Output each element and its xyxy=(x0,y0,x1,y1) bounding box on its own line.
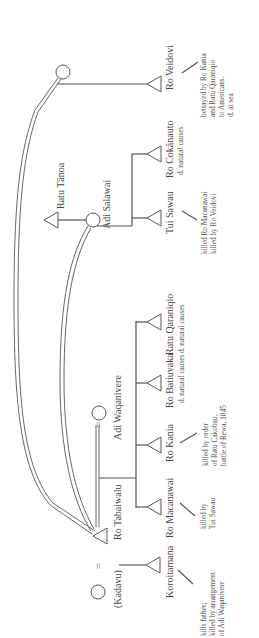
ratu-tanoa-label: Ratu Tānoa xyxy=(55,162,66,209)
ro-veidovi-note-3: to Americans. xyxy=(217,76,226,117)
person-unnamed-wife-circle-icon xyxy=(56,65,70,79)
ratu-qaraniqio-label: Ratu Qaraniqio xyxy=(164,294,175,355)
marriage-symbol: = xyxy=(92,563,104,569)
kadavu-label: (Kadavu) xyxy=(112,570,124,608)
person-adi-waqanivere-circle-icon xyxy=(92,406,106,420)
annotation-slash xyxy=(182,211,197,220)
person-ro-batiuvaka-triangle-icon xyxy=(147,375,161,391)
annotation-slash xyxy=(180,433,197,443)
ratu-qaraniqio-note-1: d. natural causes xyxy=(177,304,186,353)
marriage-symbol-2: = xyxy=(92,422,104,428)
ro-veidovi-note-1: betrayed by Ro Kania xyxy=(199,52,208,117)
ro-kania-label: Ro Kania xyxy=(164,423,175,462)
koroitamana-note-2: killed by arrangement xyxy=(208,572,217,636)
adi-salawai-label: Adi Salawai xyxy=(101,180,112,229)
tui-sawau-note-2: killed by Ro Veidovi xyxy=(209,194,218,254)
annotation-slash xyxy=(182,62,198,73)
ro-kania-note-1: killed by order xyxy=(201,422,210,466)
ro-kania-note-2: of Ratu Cakobau, xyxy=(210,415,219,466)
person-ratu-tanoa-triangle-icon xyxy=(44,212,58,228)
marriage-curve-unnamed-wife-2 xyxy=(18,79,95,531)
ro-batiuvaka-label: Ro Batiuvaka xyxy=(164,353,175,408)
marriage-curve-unnamed-wife xyxy=(14,78,92,534)
person-tui-sawau-triangle-icon xyxy=(147,210,161,226)
marriage-curve-adi-salawai xyxy=(60,226,91,531)
adi-waqanivere-label: Adi Waqanivere xyxy=(112,375,123,440)
person-koroitamana-triangle-icon xyxy=(146,557,160,573)
person-adi-salawai-circle-icon xyxy=(86,213,100,227)
marriage-curve-adi-salawai-2 xyxy=(64,228,94,529)
person-ro-cokanauto-triangle-icon xyxy=(147,146,161,162)
person-ro-kania-triangle-icon xyxy=(147,437,161,453)
ro-veidovi-note-2: and Ratu Qaraniqio xyxy=(208,60,217,117)
koroitamana-note-3: of Adi Waqanivere xyxy=(217,581,226,636)
person-kadavu-circle-icon xyxy=(91,585,105,599)
ro-batiuvaka-note-1: d. natural causes xyxy=(177,354,186,403)
ro-veidovi-label: Ro Veidovi xyxy=(164,45,175,90)
person-ro-veidovi-triangle-icon xyxy=(147,76,161,92)
annotation-slash xyxy=(178,570,193,584)
annotation-slash xyxy=(180,503,195,516)
koroitamana-label: Koroitamana xyxy=(164,545,175,598)
genealogy-diagram: (Kadavu) = Ro Tabaiwalu = Adi Waqanivere… xyxy=(0,0,259,638)
ro-cokanauto-note-1: d. natural causes xyxy=(176,126,185,175)
ro-macanawai-label: Ro Macanawai xyxy=(164,478,175,538)
ro-macanawai-note-1: killed by xyxy=(199,503,208,529)
ro-veidovi-note-4: d. at sea xyxy=(226,93,235,117)
ro-tabaiwalu-label: Ro Tabaiwalu xyxy=(112,485,123,541)
ro-macanawai-note-2: Tui Sawau xyxy=(208,497,217,529)
ro-cokanauto-label: Ro Cokānauto xyxy=(164,121,175,179)
tui-sawau-label: Tui Sawau xyxy=(164,191,175,234)
person-ro-macanawai-triangle-icon xyxy=(147,499,161,515)
koroitamana-note-1: kills father; xyxy=(199,603,208,636)
ro-kania-note-3: battle of Rewa, 1845 xyxy=(219,405,228,466)
person-ro-tabaiwalu-triangle-icon xyxy=(93,528,107,544)
person-ratu-qaraniqio-triangle-icon xyxy=(147,314,161,330)
tui-sawau-note-1: killed Ro Macanawai xyxy=(200,192,209,254)
